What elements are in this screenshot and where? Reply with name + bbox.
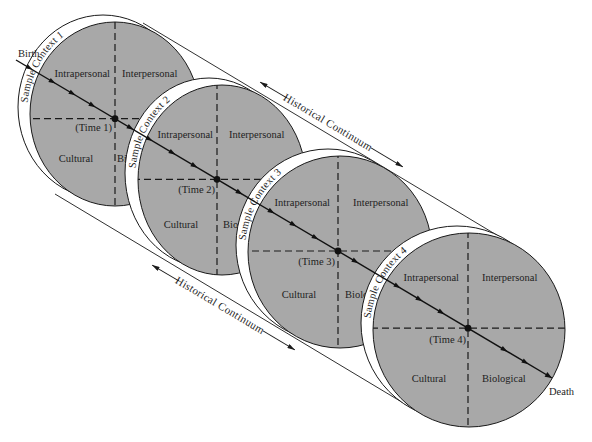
quadrant-interpersonal: Interpersonal xyxy=(122,68,177,79)
death-label: Death xyxy=(549,386,575,397)
birth-label: Birth xyxy=(18,48,40,59)
life-span-cylinder-diagram: Historical Continuum Historical Continuu… xyxy=(0,0,592,442)
time-point-2 xyxy=(214,176,221,183)
time-label: (Time 3) xyxy=(298,256,335,268)
time-point-3 xyxy=(335,248,342,255)
time-point-4 xyxy=(465,325,472,332)
arrow-left-icon xyxy=(152,265,179,281)
quadrant-intrapersonal: Intrapersonal xyxy=(55,68,110,79)
quadrant-cultural: Cultural xyxy=(59,153,93,164)
quadrant-cultural: Cultural xyxy=(164,219,198,230)
quadrant-interpersonal: Interpersonal xyxy=(353,197,408,208)
quadrant-interpersonal: Interpersonal xyxy=(482,272,537,283)
quadrant-intrapersonal: Intrapersonal xyxy=(404,272,459,283)
time-label: (Time 2) xyxy=(178,184,215,196)
quadrant-intrapersonal: Intrapersonal xyxy=(275,197,330,208)
quadrant-intrapersonal: Intrapersonal xyxy=(158,129,213,140)
arrow-right-icon xyxy=(263,331,295,350)
quadrant-cultural: Cultural xyxy=(412,373,446,384)
time-point-1 xyxy=(112,115,119,122)
quadrant-biological: Biological xyxy=(482,373,526,384)
time-label: (Time 4) xyxy=(429,334,466,346)
quadrant-cultural: Cultural xyxy=(282,289,316,300)
time-label: (Time 1) xyxy=(75,122,112,134)
quadrant-interpersonal: Interpersonal xyxy=(229,129,284,140)
